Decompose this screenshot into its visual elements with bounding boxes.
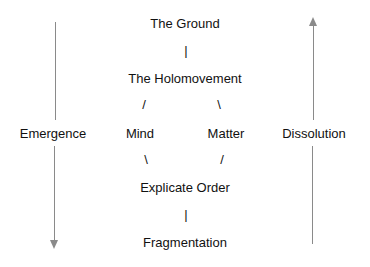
node-mind: Mind [126,126,154,142]
connector-explicate-fragmentation: | [184,207,187,223]
connector-ground-holomovement: | [184,43,187,59]
dissolution-arrow-lower-line [312,146,313,244]
emergence-label: Emergence [20,126,86,142]
node-the-holomovement: The Holomovement [128,71,241,87]
emergence-arrowhead-icon [50,240,58,249]
emergence-arrow-lower-line [54,146,55,242]
dissolution-arrow-upper-line [313,24,314,120]
dissolution-label: Dissolution [282,126,346,142]
connector-mind-explicate: \ [144,152,148,168]
emergence-arrow-upper-line [55,22,56,120]
node-the-ground: The Ground [150,16,219,32]
node-explicate-order: Explicate Order [140,180,230,196]
node-fragmentation: Fragmentation [143,235,227,251]
connector-holomovement-mind: / [142,97,146,113]
node-matter: Matter [208,126,245,142]
connector-matter-explicate: / [220,152,224,168]
connector-holomovement-matter: \ [217,97,221,113]
